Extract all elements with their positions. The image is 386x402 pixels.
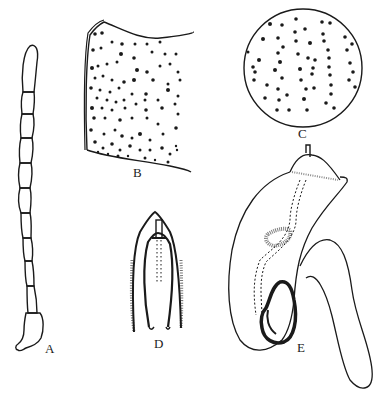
panel-a-antenna: [16, 45, 43, 351]
panel-label-e: E: [297, 340, 305, 356]
panel-c-circle: [244, 9, 362, 127]
panel-label-a: A: [45, 341, 54, 357]
panel-label-c: C: [298, 126, 307, 142]
panel-label-d: D: [154, 336, 163, 352]
figure-plate: [0, 0, 386, 402]
panel-label-b: B: [133, 165, 142, 181]
panel-b-surface: [84, 20, 193, 172]
panel-d-tip: [131, 212, 181, 332]
